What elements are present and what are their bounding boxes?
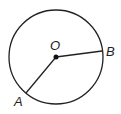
label-o: O [50,38,60,53]
radius-oa [26,57,56,93]
label-b: B [106,44,115,59]
radius-ob [56,51,102,57]
label-a: A [13,94,23,109]
center-point [54,55,59,60]
circle-diagram: O B A [0,0,121,114]
